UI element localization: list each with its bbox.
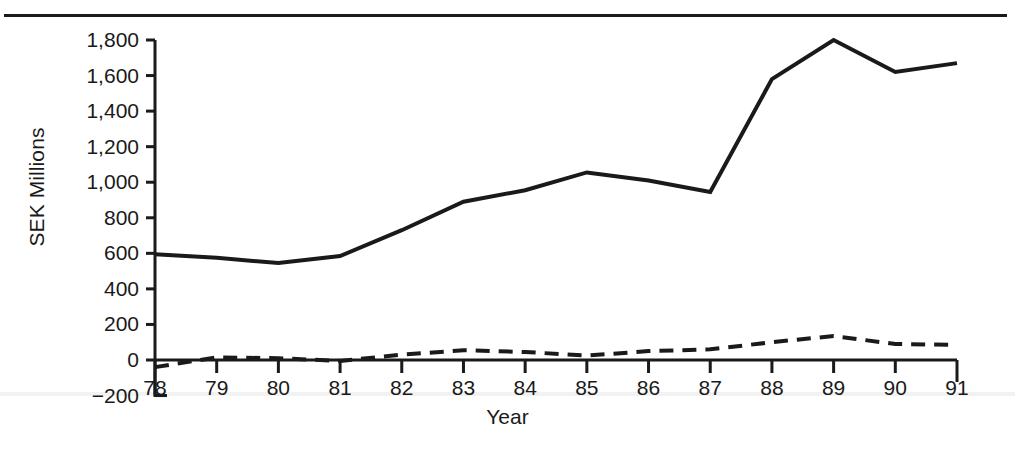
y-tick-label: 1,400 xyxy=(0,99,139,123)
y-tick-label: 0 xyxy=(0,348,139,372)
y-tick-label: 800 xyxy=(0,206,139,230)
x-tick-label: 90 xyxy=(884,376,907,400)
chart-figure: SEK Millions Year −20002004006008001,000… xyxy=(0,0,1015,456)
x-axis-label: Year xyxy=(0,405,1015,429)
y-tick-label: 200 xyxy=(0,312,139,336)
x-tick-label: 87 xyxy=(699,376,722,400)
y-tick-label: 1,600 xyxy=(0,64,139,88)
series-line-solid-series xyxy=(155,40,957,263)
x-tick-label: 82 xyxy=(390,376,413,400)
x-tick-label: 91 xyxy=(945,376,968,400)
y-tick-label: 600 xyxy=(0,241,139,265)
x-tick-label: 80 xyxy=(267,376,290,400)
x-tick-label: 84 xyxy=(513,376,536,400)
y-tick-label: 1,800 xyxy=(0,28,139,52)
x-tick-label: 86 xyxy=(637,376,660,400)
y-tick-label: 400 xyxy=(0,277,139,301)
x-tick-label: 78 xyxy=(143,376,166,400)
y-tick-label: 1,000 xyxy=(0,170,139,194)
x-tick-label: 89 xyxy=(822,376,845,400)
x-tick-label: 88 xyxy=(760,376,783,400)
series-line-dashed-series xyxy=(155,336,957,367)
x-tick-label: 81 xyxy=(328,376,351,400)
y-tick-label: 1,200 xyxy=(0,135,139,159)
x-tick-label: 79 xyxy=(205,376,228,400)
y-tick-label: −200 xyxy=(0,384,139,408)
x-tick-label: 83 xyxy=(452,376,475,400)
x-tick-label: 85 xyxy=(575,376,598,400)
